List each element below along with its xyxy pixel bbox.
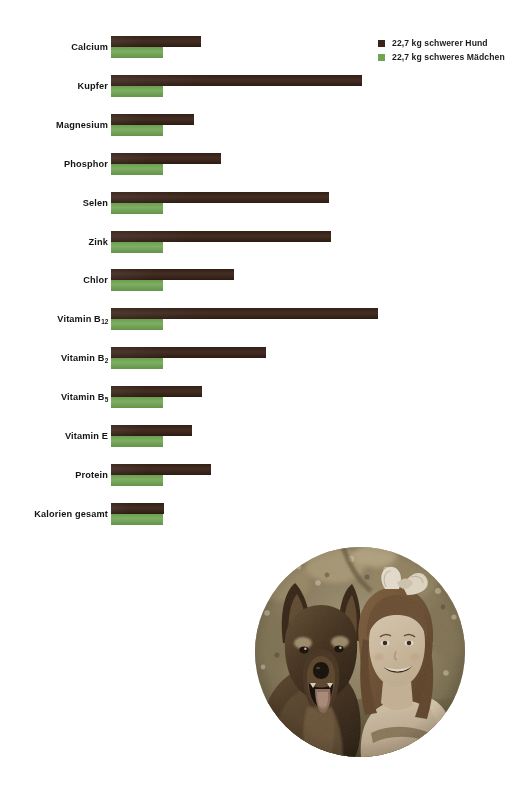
bar-pair [111, 464, 211, 486]
bar-girl [111, 475, 163, 486]
bar-pair [111, 347, 266, 369]
bar-dog [111, 153, 221, 164]
nutrient-comparison-chart: 22,7 kg schwerer Hund 22,7 kg schweres M… [0, 0, 514, 798]
bar-dog [111, 36, 201, 47]
bar-girl [111, 319, 163, 330]
category-label: Vitamin B5 [0, 392, 108, 402]
bar-girl [111, 86, 163, 97]
bar-girl [111, 164, 163, 175]
bar-dog [111, 269, 234, 280]
bar-girl [111, 358, 163, 369]
bar-dog [111, 386, 202, 397]
bar-group: Chlor [0, 269, 400, 291]
bar-dog [111, 192, 329, 203]
bar-pair [111, 75, 362, 97]
bar-pair [111, 386, 202, 408]
bar-group: Zink [0, 231, 400, 253]
category-label: Chlor [0, 275, 108, 285]
bar-group: Vitamin B12 [0, 308, 400, 330]
bar-girl [111, 242, 163, 253]
bar-dog [111, 464, 211, 475]
bar-group: Vitamin B2 [0, 347, 400, 369]
bar-girl [111, 47, 163, 58]
category-label: Calcium [0, 42, 108, 52]
category-label: Selen [0, 198, 108, 208]
bar-pair [111, 503, 164, 525]
bar-group: Magnesium [0, 114, 400, 136]
category-label: Kalorien gesamt [0, 509, 108, 519]
bar-group: Phosphor [0, 153, 400, 175]
bar-girl [111, 436, 163, 447]
bar-pair [111, 231, 331, 253]
category-label: Vitamin B2 [0, 353, 108, 363]
bar-dog [111, 308, 378, 319]
category-label: Protein [0, 470, 108, 480]
bar-girl [111, 203, 163, 214]
bar-dog [111, 75, 362, 86]
bar-group: Protein [0, 464, 400, 486]
bar-group: Vitamin B5 [0, 386, 400, 408]
bar-girl [111, 280, 163, 291]
bar-pair [111, 114, 194, 136]
bar-group: Selen [0, 192, 400, 214]
category-label: Vitamin B12 [0, 314, 108, 324]
bar-dog [111, 347, 266, 358]
bar-dog [111, 231, 331, 242]
category-label: Phosphor [0, 159, 108, 169]
dog-and-girl-photo [255, 547, 465, 757]
category-label: Kupfer [0, 81, 108, 91]
bar-pair [111, 153, 221, 175]
bar-group: Kupfer [0, 75, 400, 97]
bar-group: Calcium [0, 36, 400, 58]
category-label: Zink [0, 237, 108, 247]
bar-pair [111, 425, 192, 447]
legend-label-dog: 22,7 kg schwerer Hund [392, 39, 488, 48]
legend-label-girl: 22,7 kg schweres Mädchen [392, 53, 505, 62]
bar-group: Kalorien gesamt [0, 503, 400, 525]
bar-pair [111, 36, 201, 58]
bar-girl [111, 514, 163, 525]
bar-dog [111, 114, 194, 125]
category-label: Vitamin E [0, 431, 108, 441]
category-label: Magnesium [0, 120, 108, 130]
bar-pair [111, 192, 329, 214]
bar-group: Vitamin E [0, 425, 400, 447]
bar-girl [111, 397, 163, 408]
plot-area: CalciumKupferMagnesiumPhosphorSelenZinkC… [0, 0, 400, 560]
bar-dog [111, 425, 192, 436]
bar-girl [111, 125, 163, 136]
bar-pair [111, 269, 234, 291]
bar-dog [111, 503, 164, 514]
bar-pair [111, 308, 378, 330]
